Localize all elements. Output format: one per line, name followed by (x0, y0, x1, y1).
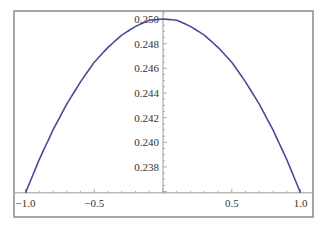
x-tick-label: −1.0 (16, 197, 36, 209)
x-tick-label: 0.5 (225, 197, 239, 209)
y-tick-label: 0.246 (134, 62, 159, 74)
line-chart: −1.0−0.50.51.00.2380.2400.2420.2440.2460… (0, 0, 322, 225)
y-tick-label: 0.244 (134, 87, 159, 99)
y-tick-label: 0.240 (134, 136, 159, 148)
y-tick-label: 0.248 (134, 38, 159, 50)
x-tick-label: −0.5 (84, 197, 104, 209)
y-tick-label: 0.238 (134, 161, 159, 173)
x-tick-label: 1.0 (294, 197, 308, 209)
y-tick-label: 0.242 (134, 112, 159, 124)
